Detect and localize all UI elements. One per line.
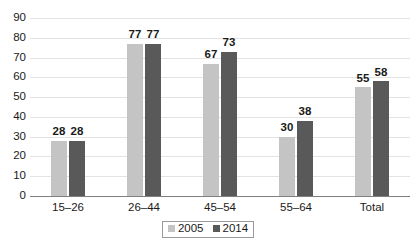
bar-pair: 2828 [51,18,85,196]
y-axis-tick-labels: 9080706050403020100 [0,18,26,196]
bar[interactable] [51,141,67,196]
bar[interactable] [297,121,313,196]
bar-value-label: 77 [129,29,142,41]
legend-item[interactable]: 2005 [168,223,204,235]
bar-slot: 67 [203,18,219,196]
y-tick-label: 50 [2,91,26,103]
bar-value-label: 58 [375,67,388,79]
legend-swatch-icon [213,225,220,232]
y-tick-label: 0 [2,190,26,202]
bar[interactable] [355,87,371,196]
bar[interactable] [69,141,85,196]
y-tick-label: 90 [2,12,26,24]
bar-value-label: 28 [71,126,84,138]
bar-group: 7777 [106,18,182,196]
x-tick-label: 15–26 [30,201,106,214]
x-tick-label: Total [334,201,410,214]
bar-group: 6773 [182,18,258,196]
bar-slot: 30 [279,18,295,196]
bar-pair: 6773 [203,18,237,196]
legend-item[interactable]: 2014 [213,223,249,235]
bar-group: 2828 [30,18,106,196]
x-axis-tick-labels: 15–2626–4445–5455–64Total [30,201,410,214]
legend-swatch-icon [168,225,175,232]
bar[interactable] [127,44,143,196]
x-tick-label: 45–54 [182,201,258,214]
bar-value-label: 55 [357,73,370,85]
legend-label: 2005 [178,223,204,235]
bar[interactable] [373,81,389,196]
bar-slot: 58 [373,18,389,196]
bar-pair: 7777 [127,18,161,196]
bar-value-label: 73 [223,37,236,49]
y-tick-label: 80 [2,32,26,44]
x-axis-line [30,196,410,197]
bar-slot: 73 [221,18,237,196]
bar-groups: 28287777677330385558 [30,18,410,196]
bar-slot: 77 [145,18,161,196]
legend: 20052014 [0,221,416,238]
y-tick-label: 20 [2,151,26,163]
y-tick-label: 70 [2,52,26,64]
y-tick-label: 30 [2,131,26,143]
y-tick-label: 60 [2,72,26,84]
bar-slot: 28 [51,18,67,196]
bar-slot: 28 [69,18,85,196]
x-tick-label: 55–64 [258,201,334,214]
bar-pair: 5558 [355,18,389,196]
bar-group: 5558 [334,18,410,196]
bar[interactable] [221,52,237,196]
bar-slot: 77 [127,18,143,196]
bar-chart: 9080706050403020100 28287777677330385558… [0,0,416,241]
bar[interactable] [203,64,219,197]
x-tick-label: 26–44 [106,201,182,214]
bar[interactable] [279,137,295,196]
legend-box: 20052014 [162,221,254,238]
bar-value-label: 67 [205,49,218,61]
bar-group: 3038 [258,18,334,196]
y-tick-label: 40 [2,111,26,123]
bar-pair: 3038 [279,18,313,196]
bar-slot: 38 [297,18,313,196]
bar-value-label: 30 [281,122,294,134]
bar-value-label: 38 [299,106,312,118]
bar-value-label: 28 [53,126,66,138]
bar-value-label: 77 [147,29,160,41]
bar-slot: 55 [355,18,371,196]
legend-label: 2014 [223,223,249,235]
bar[interactable] [145,44,161,196]
y-tick-label: 10 [2,170,26,182]
